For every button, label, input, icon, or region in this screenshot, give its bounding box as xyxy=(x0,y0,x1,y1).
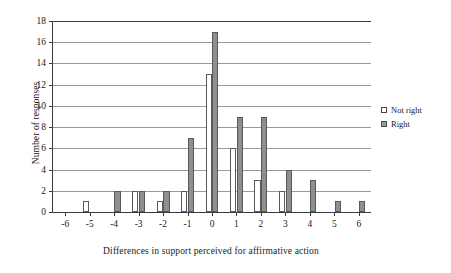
y-axis-tick xyxy=(49,148,53,149)
bar xyxy=(163,191,169,212)
bar xyxy=(279,191,285,212)
bar xyxy=(335,201,341,212)
bar xyxy=(206,74,212,212)
x-axis-tick-label: 0 xyxy=(210,219,215,229)
legend-swatch-not-right xyxy=(381,107,387,113)
y-axis-tick-label: 8 xyxy=(41,122,46,132)
x-axis-tick-label: 2 xyxy=(259,219,264,229)
bar-chart-figure: Number of responses 024681012141618 -6-5… xyxy=(0,0,451,273)
y-axis-tick-label: 4 xyxy=(41,165,46,175)
x-axis-tick xyxy=(334,212,335,216)
y-axis-tick xyxy=(49,106,53,107)
x-axis-tick xyxy=(359,212,360,216)
legend-label-right: Right xyxy=(391,120,410,129)
x-axis-tick-label: 4 xyxy=(307,219,312,229)
x-axis-tick-label: 3 xyxy=(283,219,288,229)
x-axis-tick xyxy=(188,212,189,216)
x-axis-tick xyxy=(139,212,140,216)
legend-item-not-right: Not right xyxy=(381,106,422,115)
bar xyxy=(254,180,260,212)
legend-swatch-right xyxy=(381,121,387,127)
y-axis-tick-label: 12 xyxy=(37,80,47,90)
x-axis-tick xyxy=(310,212,311,216)
x-axis-tick xyxy=(212,212,213,216)
x-axis-tick-label: -1 xyxy=(184,219,192,229)
x-axis-tick xyxy=(261,212,262,216)
x-axis-tick xyxy=(90,212,91,216)
y-axis-tick xyxy=(49,191,53,192)
x-axis-title: Differences in support perceived for aff… xyxy=(52,246,370,256)
legend-label-not-right: Not right xyxy=(391,106,422,115)
y-axis-tick-label: 16 xyxy=(37,37,47,47)
x-axis-tick xyxy=(236,212,237,216)
bar xyxy=(237,117,243,213)
plot-area: 024681012141618 -6-5-4-3-2-10123456 xyxy=(52,21,371,213)
bar xyxy=(139,191,145,212)
y-axis-tick xyxy=(49,212,53,213)
bars-group xyxy=(53,21,371,212)
y-axis-tick-label: 18 xyxy=(37,16,47,26)
x-axis-tick-label: -4 xyxy=(110,219,118,229)
x-axis-tick-label: -2 xyxy=(159,219,167,229)
y-axis-tick xyxy=(49,85,53,86)
bar xyxy=(310,180,316,212)
y-axis-tick-label: 0 xyxy=(41,207,46,217)
x-axis-tick-label: 6 xyxy=(356,219,361,229)
bar xyxy=(132,191,138,212)
x-axis-tick xyxy=(65,212,66,216)
x-axis-tick xyxy=(285,212,286,216)
x-axis-tick-label: -3 xyxy=(135,219,143,229)
bar xyxy=(212,32,218,212)
x-axis-tick xyxy=(114,212,115,216)
x-axis-tick-label: 5 xyxy=(332,219,337,229)
y-axis-tick xyxy=(49,127,53,128)
x-axis-tick xyxy=(163,212,164,216)
bar xyxy=(286,170,292,212)
y-axis-tick-label: 10 xyxy=(37,101,47,111)
y-axis-tick xyxy=(49,170,53,171)
y-axis-tick xyxy=(49,63,53,64)
x-axis-tick-label: 1 xyxy=(234,219,239,229)
legend: Not right Right xyxy=(381,106,422,133)
y-axis-tick xyxy=(49,21,53,22)
legend-item-right: Right xyxy=(381,120,422,129)
bar xyxy=(188,138,194,212)
y-axis-tick-label: 6 xyxy=(41,143,46,153)
bar xyxy=(157,201,163,212)
x-axis-tick-label: -5 xyxy=(86,219,94,229)
bar xyxy=(83,201,89,212)
bar xyxy=(359,201,365,212)
bar xyxy=(114,191,120,212)
y-axis-tick-label: 14 xyxy=(37,58,47,68)
y-axis-tick xyxy=(49,42,53,43)
bar xyxy=(181,191,187,212)
x-axis-tick-label: -6 xyxy=(61,219,69,229)
y-axis-tick-label: 2 xyxy=(41,186,46,196)
bar xyxy=(230,148,236,212)
bar xyxy=(261,117,267,213)
